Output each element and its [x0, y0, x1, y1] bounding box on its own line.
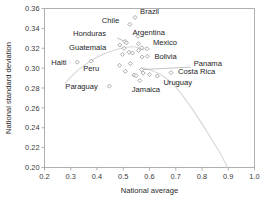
data-point-label: Mexico	[153, 38, 177, 47]
x-tick-label: 0.3	[66, 172, 76, 181]
y-tick-label: 0.32	[25, 44, 39, 53]
data-point-label: Paraguay	[65, 82, 98, 91]
data-point-marker[interactable]	[140, 55, 144, 59]
x-tick-label: 0.9	[223, 172, 233, 181]
data-point-label: Brazil	[140, 7, 159, 16]
data-point-marker[interactable]	[138, 79, 142, 83]
data-point-label: Panama	[194, 59, 223, 68]
data-point-marker[interactable]	[140, 46, 144, 50]
y-tick-label: 0.22	[25, 143, 39, 152]
y-tick-label: 0.20	[25, 163, 39, 172]
data-point-marker[interactable]	[128, 22, 132, 26]
x-tick-label: 0.6	[144, 172, 154, 181]
data-point-marker[interactable]	[130, 51, 134, 55]
scatter-chart: 0.20.30.40.50.60.70.80.91.00.200.220.240…	[0, 0, 266, 202]
data-point-marker[interactable]	[120, 52, 124, 56]
x-tick-label: 1.0	[249, 172, 259, 181]
data-point-marker[interactable]	[122, 46, 126, 50]
data-point-label: Honduras	[73, 29, 106, 38]
data-point-marker[interactable]	[123, 69, 127, 73]
x-axis-title: National average	[121, 186, 178, 195]
data-point-marker[interactable]	[145, 54, 149, 58]
y-tick-label: 0.26	[25, 104, 39, 113]
plot-svg: 0.20.30.40.50.60.70.80.91.00.200.220.240…	[0, 0, 266, 202]
data-point-marker[interactable]	[155, 74, 159, 78]
x-tick-label: 0.8	[197, 172, 207, 181]
x-tick-label: 0.2	[39, 172, 49, 181]
data-point-marker[interactable]	[75, 60, 79, 64]
y-tick-label: 0.24	[25, 123, 39, 132]
data-point-label: Jamaica	[132, 85, 161, 94]
y-tick-label: 0.36	[25, 4, 39, 13]
data-point-marker[interactable]	[127, 50, 131, 54]
x-tick-label: 0.5	[118, 172, 128, 181]
data-point-marker[interactable]	[118, 43, 122, 47]
y-tick-label: 0.28	[25, 84, 39, 93]
data-point-label: Costa Rica	[178, 67, 216, 76]
data-point-marker[interactable]	[118, 63, 122, 67]
data-point-label: Bolivia	[154, 52, 177, 61]
data-point-label: Peru	[83, 64, 99, 73]
data-point-marker[interactable]	[136, 48, 140, 52]
data-point-marker[interactable]	[107, 84, 111, 88]
data-point-marker[interactable]	[145, 47, 149, 51]
x-tick-label: 0.4	[92, 172, 102, 181]
data-point-label: Argentina	[132, 28, 165, 37]
y-tick-label: 0.34	[25, 24, 39, 33]
y-tick-label: 0.30	[25, 64, 39, 73]
data-point-label: Uruguay	[163, 78, 192, 87]
y-axis-title: National standard deviation	[4, 42, 13, 134]
data-point-marker[interactable]	[133, 15, 137, 19]
data-point-marker[interactable]	[169, 71, 173, 75]
data-point-marker[interactable]	[136, 42, 140, 46]
x-tick-label: 0.7	[171, 172, 181, 181]
data-point-marker[interactable]	[148, 73, 152, 77]
data-point-label: Haiti	[51, 58, 67, 67]
data-point-label: Guatemala	[69, 43, 107, 52]
data-point-marker[interactable]	[128, 62, 132, 66]
data-point-label: Chile	[102, 16, 119, 25]
